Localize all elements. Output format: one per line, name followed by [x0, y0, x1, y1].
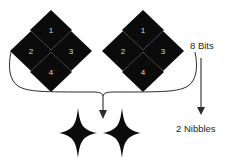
left-bit-group: 1 2 3 4 — [10, 10, 92, 92]
diagram-canvas: 1 2 3 4 1 — [0, 0, 236, 163]
bit-number-label: 2 — [29, 47, 34, 56]
arrow-head-icon — [99, 110, 107, 119]
right-nibble-star — [103, 108, 141, 158]
bit-number-label: 4 — [49, 68, 54, 77]
bit-number-label: 1 — [49, 26, 54, 35]
bit-number-label: 3 — [161, 47, 166, 56]
four-point-star-icon — [103, 108, 141, 158]
bits-to-nibbles-arrow — [197, 58, 205, 115]
right-bit-group: 1 2 3 4 — [102, 10, 184, 92]
arrow-head-icon — [197, 107, 205, 115]
bit-number-label: 1 — [141, 26, 146, 35]
bit-number-label: 3 — [69, 47, 74, 56]
bits-to-nibbles-diagram: 1 2 3 4 1 — [0, 0, 236, 163]
two-nibbles-label: 2 Nibbles — [176, 123, 216, 134]
bit-number-label: 2 — [121, 47, 126, 56]
brace-to-nibbles-arrow — [99, 96, 107, 119]
bit-number-label: 4 — [141, 68, 146, 77]
left-nibble-star — [59, 108, 97, 158]
four-point-star-icon — [59, 108, 97, 158]
eight-bits-label: 8 Bits — [190, 40, 214, 51]
